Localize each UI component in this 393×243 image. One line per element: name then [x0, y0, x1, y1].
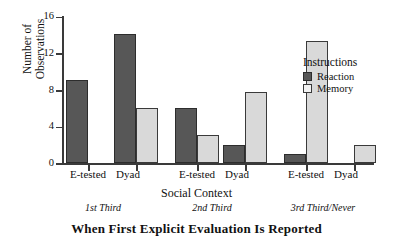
- group-label-first-third: 1st Third: [58, 202, 148, 213]
- bar-g2-etested-memory: [197, 135, 219, 163]
- bar-g1-dyad-reaction: [114, 34, 136, 163]
- bar-g3-etested-reaction: [284, 154, 306, 163]
- legend-label-memory: Memory: [317, 83, 353, 94]
- y-axis-label-12: 12: [32, 48, 54, 58]
- bar-g2-dyad-memory: [245, 92, 267, 163]
- y-axis-label-8: 8: [32, 85, 54, 95]
- bar-g2-dyad-reaction: [223, 145, 245, 163]
- x-axis-category-g1-dyad: Dyad: [106, 168, 150, 180]
- x-axis-title: Social Context: [0, 186, 393, 201]
- legend: Instructions Reaction Memory: [303, 56, 357, 94]
- y-axis-label-4: 4: [32, 121, 54, 131]
- legend-item-memory: Memory: [303, 83, 357, 94]
- group-label-third-third-never: 3rd Third/Never: [268, 202, 378, 213]
- x-axis-category-g3-dyad: Dyad: [324, 168, 368, 180]
- legend-label-reaction: Reaction: [317, 71, 354, 82]
- x-axis-line: [62, 163, 374, 165]
- y-axis-label-16: 16: [32, 11, 54, 21]
- legend-swatch-reaction-icon: [303, 72, 312, 81]
- legend-title: Instructions: [303, 56, 357, 68]
- legend-swatch-memory-icon: [303, 84, 312, 93]
- bar-g3-dyad-memory: [354, 145, 376, 163]
- x-axis-category-g2-dyad: Dyad: [215, 168, 259, 180]
- bar-g1-etested-reaction: [66, 80, 88, 163]
- legend-item-reaction: Reaction: [303, 71, 357, 82]
- chart-bottom-title: When First Explicit Evaluation Is Report…: [0, 221, 393, 237]
- bar-chart: Number of Observations 16 12 8 4 0 E-tes…: [0, 0, 393, 243]
- y-axis-label-0: 0: [32, 158, 54, 168]
- group-label-second-third: 2nd Third: [167, 202, 257, 213]
- bar-g1-dyad-memory: [136, 108, 158, 163]
- bar-g2-etested-reaction: [175, 108, 197, 163]
